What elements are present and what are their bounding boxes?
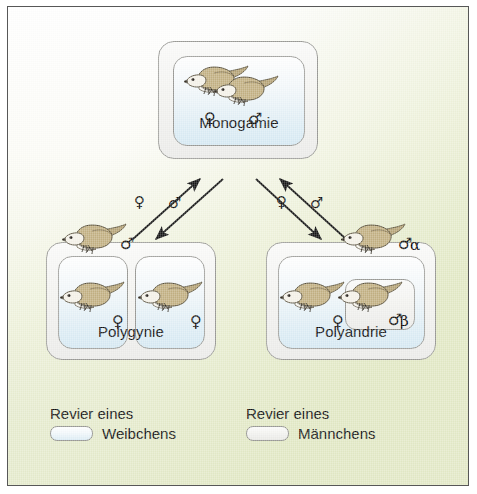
diagram-page: ♀ ♂ ♀ ♂ Monogamie: [0, 0, 477, 494]
polygynie-female-symbol-1: ♀: [112, 314, 124, 330]
polygynie-female-symbol-2: ♀: [190, 314, 202, 330]
arrow-label-monogamie-to-polygynie: ♂: [168, 196, 181, 211]
bird-polygynie-male: [62, 221, 128, 259]
arrow-monogamie-to-polygynie: [156, 179, 223, 239]
legend-female-swatch: [50, 426, 93, 441]
polyandrie-label: Polyandrie: [267, 323, 435, 340]
legend-female-line1: Revier eines: [50, 405, 176, 422]
legend-female-line2: Weibchens: [102, 425, 176, 442]
monogamie-male-symbol: ♂: [248, 111, 262, 127]
arrow-label-polygynie-to-monogamie: ♀: [134, 195, 145, 210]
legend-male-line2: Männchens: [298, 425, 376, 442]
polygynie-male-symbol: ♂: [120, 236, 134, 252]
legend-female-territory: Revier eines Weibchens: [50, 405, 176, 442]
legend-male-territory: Revier eines Männchens: [246, 405, 376, 442]
bird-monogamie-male: [214, 73, 280, 111]
monogamie-female-symbol: ♀: [204, 111, 216, 127]
polyandrie-alpha-rank: α: [410, 236, 420, 254]
polyandrie-beta-rank: β: [400, 312, 409, 330]
monogamie-label: Monogamie: [174, 114, 304, 131]
arrow-label-polyandrie-to-monogamie: ♂: [310, 196, 323, 211]
diagram-frame: ♀ ♂ ♀ ♂ Monogamie: [7, 6, 469, 486]
legend-male-line1: Revier eines: [246, 405, 376, 422]
legend-male-swatch: [246, 426, 289, 441]
arrow-label-monogamie-to-polyandrie: ♀: [276, 195, 287, 210]
